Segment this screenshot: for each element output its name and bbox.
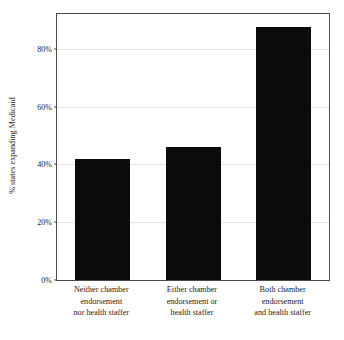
y-tick-label-80: 80% — [8, 44, 52, 53]
bar-chart-figure: % states expanding Medicaid 0%20%40%60%8… — [0, 0, 344, 340]
x-tick-label-line: endorsement — [56, 296, 147, 308]
x-tick-label-3: Both chamberendorsementand health staffe… — [237, 284, 328, 319]
x-tick-label-line: endorsement — [237, 296, 328, 308]
bar-3[interactable] — [256, 27, 311, 280]
x-tick-label-line: Neither chamber — [56, 284, 147, 296]
plot-area — [56, 13, 330, 281]
x-tick-label-line: endorsement or — [147, 296, 238, 308]
x-tick-label-line: Both chamber — [237, 284, 328, 296]
x-tick-label-line: and health staffer — [237, 307, 328, 319]
y-tick-label-60: 60% — [8, 102, 52, 111]
y-tick-label-0: 0% — [8, 276, 52, 285]
x-axis-tick-labels: Neither chamberendorsementnor health sta… — [56, 284, 330, 340]
y-tick-label-20: 20% — [8, 218, 52, 227]
plot-inner — [57, 14, 329, 280]
y-tick-label-40: 40% — [8, 160, 52, 169]
x-tick-label-line: health staffer — [147, 307, 238, 319]
bar-1[interactable] — [75, 159, 130, 280]
x-tick-label-2: Either chamberendorsement orhealth staff… — [147, 284, 238, 319]
x-tick-label-1: Neither chamberendorsementnor health sta… — [56, 284, 147, 319]
bar-2[interactable] — [166, 147, 221, 280]
y-axis-tick-labels: 0%20%40%60%80% — [4, 0, 52, 340]
x-tick-label-line: nor health staffer — [56, 307, 147, 319]
x-tick-label-line: Either chamber — [147, 284, 238, 296]
